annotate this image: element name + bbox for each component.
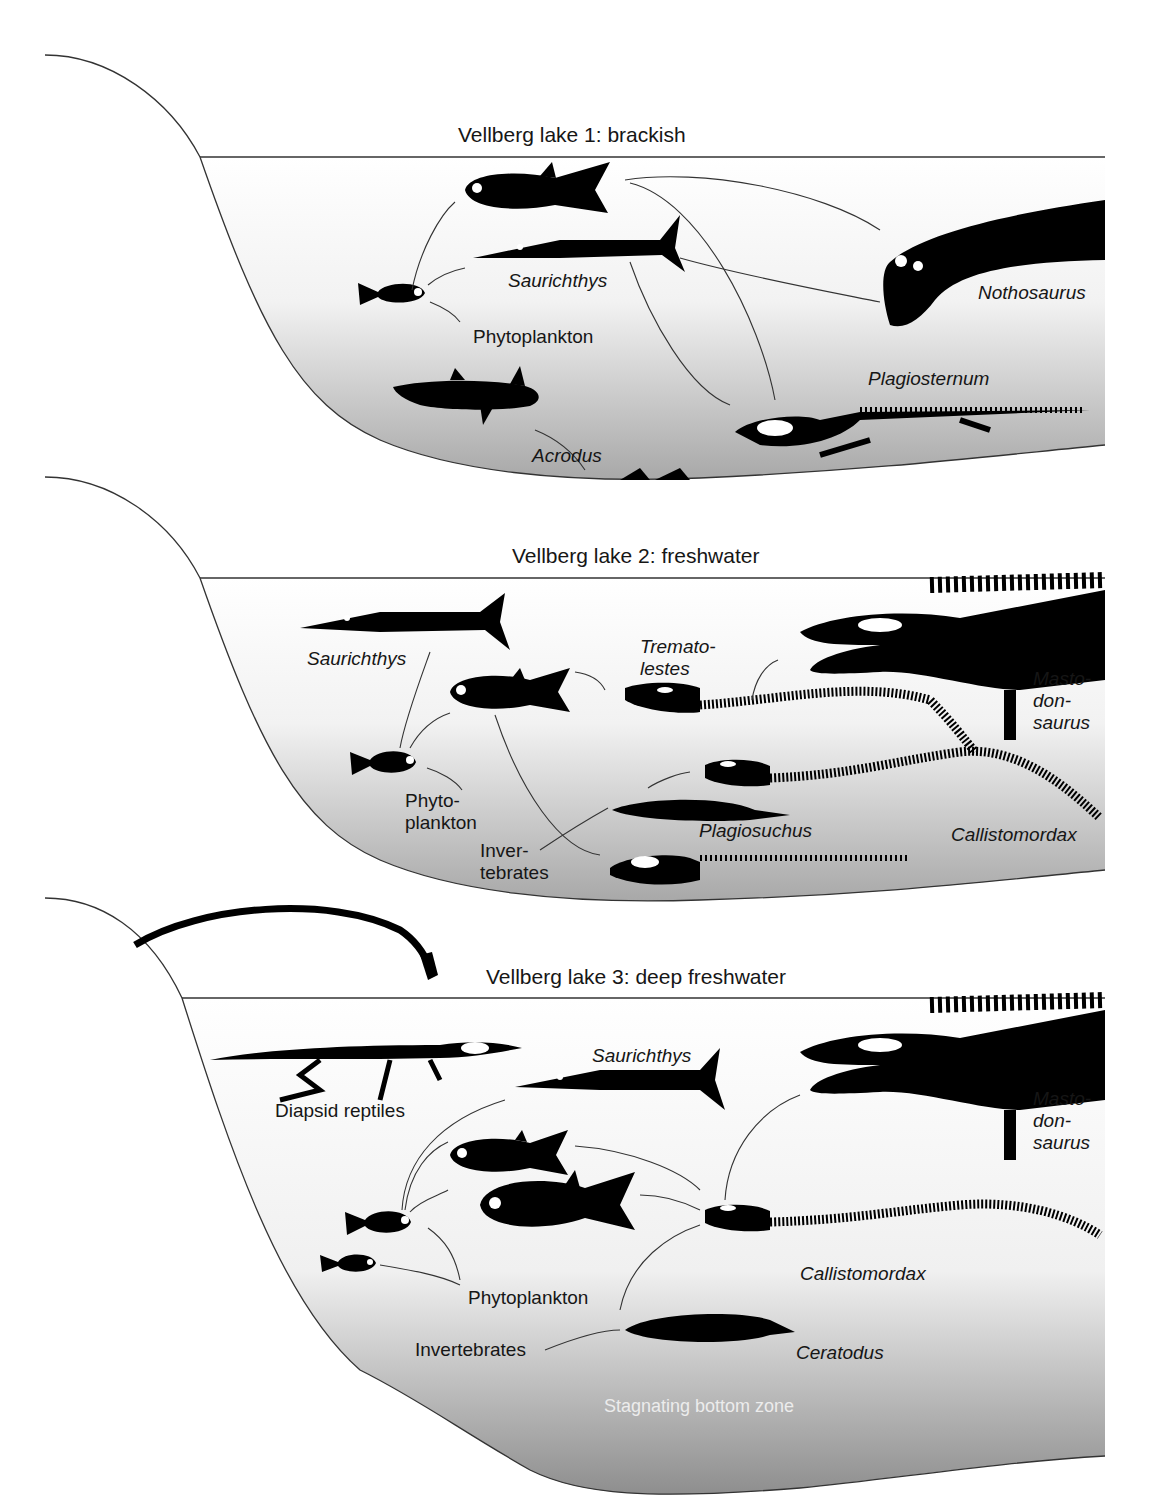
label-callistomordax: Callistomordax [800, 1263, 926, 1285]
label-mastodonsaurus: Masto- don- saurus [1033, 668, 1091, 734]
label-stagnating-bottom-zone: Stagnating bottom zone [604, 1395, 794, 1417]
label-phytoplankton: Phytoplankton [473, 326, 593, 348]
tanystropheus-neck-icon [135, 909, 438, 980]
lake-diagram [0, 0, 1153, 1508]
label-acrodus: Acrodus [532, 445, 602, 467]
lake-2-title: Vellberg lake 2: freshwater [512, 545, 759, 567]
label-nothosaurus: Nothosaurus [978, 282, 1086, 304]
label-plagiosternum: Plagiosternum [868, 368, 989, 390]
label-ceratodus: Ceratodus [796, 1342, 884, 1364]
label-invertebrates: Inver- tebrates [480, 840, 549, 884]
lake-3-title: Vellberg lake 3: deep freshwater [486, 966, 786, 988]
label-phytoplankton: Phytoplankton [468, 1287, 588, 1309]
lake-1-title: Vellberg lake 1: brackish [458, 124, 686, 146]
label-plagiosuchus: Plagiosuchus [699, 820, 812, 842]
label-invertebrates: Invertebrates [415, 1339, 526, 1361]
label-saurichthys: Saurichthys [307, 648, 406, 670]
label-saurichthys: Saurichthys [592, 1045, 691, 1067]
label-diapsid-reptiles: Diapsid reptiles [275, 1100, 405, 1122]
label-callistomordax: Callistomordax [951, 824, 1077, 846]
label-phytoplankton: Phyto- plankton [405, 790, 477, 834]
lake-2-panel [45, 477, 1105, 901]
label-mastodonsaurus: Masto- don- saurus [1033, 1088, 1091, 1154]
label-saurichthys: Saurichthys [508, 270, 607, 292]
lake-1-water [200, 157, 1105, 479]
label-trematolestes: Tremato- lestes [640, 636, 716, 680]
lake-1-panel [45, 55, 1105, 480]
